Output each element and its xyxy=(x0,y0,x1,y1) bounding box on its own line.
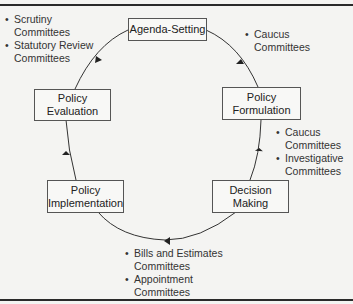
annotation-item: ScrutinyCommittees xyxy=(5,13,93,39)
stage-decision-making: Decision Making xyxy=(212,180,289,213)
arrowhead-icon xyxy=(95,56,102,63)
annotation-item: CaucusCommittees xyxy=(276,126,343,152)
arrow-decision-to-implementation xyxy=(98,212,236,240)
stage-label: Implementation xyxy=(48,197,123,210)
annotation-item: Statutory ReviewCommittees xyxy=(5,39,93,65)
annotation-right: CaucusCommittees InvestigativeCommittees xyxy=(276,126,343,178)
stage-label: Agenda-Setting xyxy=(130,23,206,36)
stage-label: Policy xyxy=(247,91,276,104)
stage-label: Policy xyxy=(71,184,100,197)
arrowhead-icon xyxy=(62,151,70,155)
stage-policy-implementation: Policy Implementation xyxy=(47,180,124,213)
annotation-item: InvestigativeCommittees xyxy=(276,152,343,178)
arrowhead-icon xyxy=(164,237,170,245)
annotation-item: CaucusCommittees xyxy=(245,28,310,54)
annotation-item: AppointmentCommittees xyxy=(125,273,223,299)
annotation-bottom: Bills and EstimatesCommittees Appointmen… xyxy=(125,247,223,299)
stage-agenda-setting: Agenda-Setting xyxy=(128,18,207,41)
stage-policy-evaluation: Policy Evaluation xyxy=(34,89,111,121)
arrow-implementation-to-evaluation xyxy=(66,120,76,180)
stage-label: Decision xyxy=(229,184,271,197)
stage-policy-formulation: Policy Formulation xyxy=(222,87,301,120)
stage-label: Making xyxy=(233,197,268,210)
stage-label: Policy xyxy=(58,92,87,105)
stage-label: Formulation xyxy=(232,104,290,117)
stage-label: Evaluation xyxy=(47,105,98,118)
arrowhead-icon xyxy=(255,148,263,152)
annotation-item: Bills and EstimatesCommittees xyxy=(125,247,223,273)
annotation-top-left: ScrutinyCommittees Statutory ReviewCommi… xyxy=(5,13,93,65)
annotation-top-right: CaucusCommittees xyxy=(245,28,310,54)
